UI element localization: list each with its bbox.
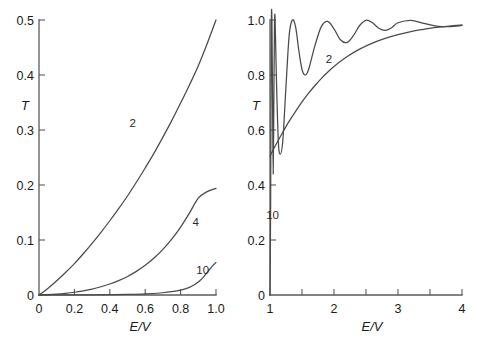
left-panel-ytick-label-4: 0.4 bbox=[17, 69, 34, 83]
right-panel-ytick-label-2: 0.4 bbox=[248, 179, 265, 193]
right-panel-xtick-label-2: 3 bbox=[395, 302, 402, 316]
left-panel-xtick-label-0: 0 bbox=[36, 302, 43, 316]
left-panel-curve-10 bbox=[39, 263, 216, 295]
left-panel-ytick-label-5: 0.5 bbox=[17, 14, 34, 28]
left-panel-curve-2 bbox=[39, 20, 216, 295]
left-panel-xtick-label-1: 0.2 bbox=[66, 302, 83, 316]
right-panel-curve-label-10: 10 bbox=[266, 209, 279, 221]
right-panel-x-ticks bbox=[302, 289, 462, 295]
left-panel-curve-label-10: 10 bbox=[196, 264, 209, 276]
right-panel-y-axis-label: T bbox=[252, 98, 261, 113]
left-panel-ytick-label-2: 0.2 bbox=[17, 179, 34, 193]
right-panel-x-axis-label: E/V bbox=[362, 319, 384, 334]
right-panel-ytick-label-5: 1.0 bbox=[248, 14, 265, 28]
left-panel-xtick-label-3: 0.6 bbox=[137, 302, 154, 316]
transmission-coefficient-figure: 0.5 0.4 0.3 0.2 0.1 0 0 0.2 0.4 0.6 0.8 … bbox=[0, 0, 477, 341]
left-panel-curve-4 bbox=[39, 188, 216, 295]
left-panel-x-axis-label: E/V bbox=[130, 319, 152, 334]
right-panel-xtick-label-3: 4 bbox=[459, 302, 466, 316]
left-panel-xtick-label-5: 1.0 bbox=[207, 302, 224, 316]
left-panel-ytick-label-1: 0.1 bbox=[17, 234, 34, 248]
left-panel-xtick-label-2: 0.4 bbox=[101, 302, 118, 316]
right-panel-ytick-label-3: 0.6 bbox=[248, 124, 265, 138]
right-panel-ytick-label-1: 0.2 bbox=[248, 234, 265, 248]
left-panel-curve-label-4: 4 bbox=[192, 216, 199, 228]
left-panel-ytick-label-3: 0.3 bbox=[17, 124, 34, 138]
left-panel-ytick-label-0: 0 bbox=[27, 289, 34, 303]
right-panel-xtick-label-0: 1 bbox=[267, 302, 274, 316]
left-panel: 0.5 0.4 0.3 0.2 0.1 0 0 0.2 0.4 0.6 0.8 … bbox=[17, 14, 225, 334]
figure-svg: 0.5 0.4 0.3 0.2 0.1 0 0 0.2 0.4 0.6 0.8 … bbox=[0, 0, 477, 341]
right-panel-curve-label-2: 2 bbox=[326, 53, 332, 65]
right-panel-xtick-label-1: 2 bbox=[331, 302, 338, 316]
left-panel-curve-label-2: 2 bbox=[130, 117, 136, 129]
left-panel-y-axis-label: T bbox=[21, 98, 30, 113]
right-panel: 1.0 0.8 0.6 0.4 0.2 0 1 2 3 4 T E/V 2 10 bbox=[248, 9, 466, 334]
right-panel-ytick-label-4: 0.8 bbox=[248, 69, 265, 83]
right-panel-ytick-label-0: 0 bbox=[258, 289, 265, 303]
right-panel-curve-10 bbox=[270, 9, 462, 295]
left-panel-y-ticks bbox=[39, 20, 45, 240]
right-panel-curve-2 bbox=[270, 25, 462, 156]
left-panel-xtick-label-4: 0.8 bbox=[172, 302, 189, 316]
